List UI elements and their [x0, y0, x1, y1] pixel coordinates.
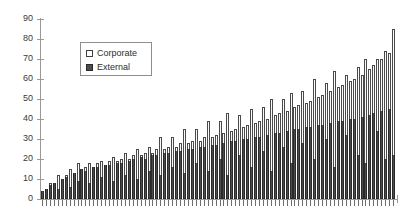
bar: [353, 79, 356, 199]
bar: [219, 121, 222, 199]
x-axis-tick-mark: [310, 200, 311, 206]
bar: [372, 65, 375, 199]
bar: [199, 141, 202, 199]
x-axis-tick-mark: [160, 200, 161, 206]
bar-segment-corporate: [57, 175, 60, 189]
bar: [77, 163, 80, 199]
bar: [309, 101, 312, 199]
y-axis-tick-label: 40: [23, 113, 33, 123]
bar-segment-corporate: [361, 75, 364, 117]
bar: [250, 109, 253, 199]
bar: [144, 153, 147, 199]
bar: [116, 161, 119, 199]
bar-segment-external: [179, 151, 182, 199]
bar: [215, 135, 218, 199]
bar-segment-external: [159, 175, 162, 199]
x-axis-tick-mark: [46, 200, 47, 206]
bar: [242, 127, 245, 199]
bar-segment-external: [364, 163, 367, 199]
bar-segment-corporate: [266, 119, 269, 135]
bar-segment-external: [61, 179, 64, 199]
bar: [195, 129, 198, 199]
x-axis-tick-mark: [50, 200, 51, 206]
bar-segment-corporate: [301, 91, 304, 143]
bar: [96, 163, 99, 199]
bar: [57, 175, 60, 199]
bar-segment-external: [376, 131, 379, 199]
bar-segment-external: [207, 171, 210, 199]
x-axis-tick-mark: [283, 200, 284, 206]
bar-segment-corporate: [258, 121, 261, 137]
bar: [345, 75, 348, 199]
bar-segment-external: [77, 181, 80, 199]
x-axis-tick-mark: [358, 200, 359, 206]
bar-segment-external: [211, 145, 214, 199]
bar-segment-external: [337, 121, 340, 199]
bar-segment-corporate: [392, 29, 395, 155]
bar-segment-external: [104, 165, 107, 199]
bar-segment-external: [96, 167, 99, 199]
x-axis-tick-mark: [137, 200, 138, 206]
x-axis-tick-mark: [334, 200, 335, 206]
x-axis-tick-mark: [271, 200, 272, 206]
bar-segment-corporate: [297, 105, 300, 129]
bar: [313, 79, 316, 199]
bar-segment-external: [384, 159, 387, 199]
bar-segment-external: [167, 153, 170, 199]
bar: [329, 91, 332, 199]
x-axis-tick-mark: [180, 200, 181, 206]
bar-segment-external: [132, 159, 135, 199]
y-axis-tick-label: 20: [23, 153, 33, 163]
bar-segment-external: [187, 149, 190, 199]
bar: [163, 149, 166, 199]
bar-segment-corporate: [274, 115, 277, 133]
bar-segment-external: [353, 119, 356, 199]
x-axis-tick-mark: [85, 200, 86, 206]
bar-segment-corporate: [293, 107, 296, 129]
bar-segment-external: [144, 159, 147, 199]
bar: [120, 159, 123, 199]
bar-segment-external: [349, 119, 352, 199]
x-axis-tick-mark: [306, 200, 307, 206]
bar-segment-corporate: [124, 153, 127, 175]
bar: [191, 141, 194, 199]
bar-segment-corporate: [290, 93, 293, 163]
x-axis-tick-mark: [322, 200, 323, 206]
bar: [246, 125, 249, 199]
x-axis-tick-mark: [97, 200, 98, 206]
x-axis-tick-mark: [342, 200, 343, 206]
y-axis-tick-label: 90: [23, 13, 33, 23]
bar-segment-external: [92, 167, 95, 199]
bar-segment-external: [262, 151, 265, 199]
x-axis-tick-mark: [377, 200, 378, 206]
bar-segment-corporate: [195, 129, 198, 163]
bar-segment-corporate: [376, 59, 379, 131]
x-axis-tick-mark: [62, 200, 63, 206]
bar-segment-external: [286, 131, 289, 199]
bar-segment-external: [333, 167, 336, 199]
bar-segment-corporate: [341, 85, 344, 121]
bar-segment-external: [317, 125, 320, 199]
bar-segment-external: [45, 189, 48, 199]
bar: [222, 133, 225, 199]
bar-segment-external: [140, 157, 143, 199]
bar: [211, 137, 214, 199]
bar: [148, 147, 151, 199]
bar-segment-corporate: [112, 157, 115, 181]
bar-segment-corporate: [242, 127, 245, 139]
bar: [100, 161, 103, 199]
bar: [270, 99, 273, 199]
bar: [207, 121, 210, 199]
bar: [278, 113, 281, 199]
bar: [325, 83, 328, 199]
bar: [376, 59, 379, 199]
bar-segment-corporate: [219, 121, 222, 159]
bar-segment-external: [195, 163, 198, 199]
bar: [234, 129, 237, 199]
bar-segment-corporate: [211, 137, 214, 145]
bar-segment-corporate: [317, 97, 320, 125]
bar-segment-external: [219, 159, 222, 199]
x-axis-tick-mark: [93, 200, 94, 206]
x-axis-tick-mark: [204, 200, 205, 206]
bar: [175, 147, 178, 199]
